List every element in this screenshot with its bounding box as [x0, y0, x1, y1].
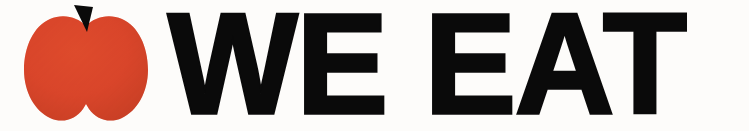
apple-logo: [18, 0, 154, 131]
apple-body: [24, 16, 148, 120]
wordmark: WE EAT: [168, 0, 743, 131]
poster-canvas: WE EAT: [0, 0, 749, 131]
wordmark-text: WE EAT: [168, 5, 686, 122]
